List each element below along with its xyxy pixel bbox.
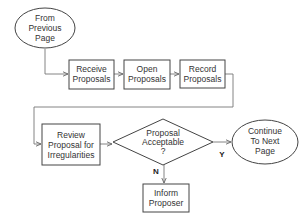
node-record-proposals: Record Proposals [180, 60, 225, 88]
node-review-line1: Review [57, 130, 86, 140]
node-from-previous-line2: Previous [28, 23, 61, 33]
node-review-proposal: Review Proposal for Irregularities [42, 124, 100, 165]
node-decision-acceptable: Proposal Acceptable ? [113, 119, 213, 165]
node-continue-line1: Continue [248, 126, 282, 136]
node-continue-next-page: Continue To Next Page [232, 120, 298, 164]
node-record-line1: Record [189, 64, 217, 74]
node-receive-line2: Proposals [73, 74, 111, 84]
node-open-proposals: Open Proposals [124, 60, 170, 89]
node-from-previous-line1: From [35, 13, 55, 23]
node-open-line2: Proposals [128, 74, 166, 84]
node-open-line1: Open [137, 64, 158, 74]
node-receive-proposals: Receive Proposals [69, 60, 114, 89]
node-review-line3: Irregularities [48, 150, 95, 160]
node-record-line2: Proposals [184, 74, 222, 84]
node-inform-line1: Inform [154, 188, 178, 198]
edge-label-no: N [153, 167, 159, 176]
node-inform-proposer: Inform Proposer [143, 184, 189, 212]
node-decision-line3: ? [161, 146, 166, 156]
node-inform-line2: Proposer [149, 198, 184, 208]
node-review-line2: Proposal for [48, 140, 94, 150]
edge-from-previous-to-receive [45, 49, 68, 74]
edge-label-yes: Y [219, 150, 225, 159]
node-continue-line2: To Next [251, 136, 280, 146]
node-from-previous-line3: Page [35, 33, 55, 43]
node-receive-line1: Receive [76, 64, 107, 74]
node-continue-line3: Page [255, 146, 275, 156]
node-from-previous-page: From Previous Page [15, 8, 75, 48]
flowchart-canvas: From Previous Page Receive Proposals Ope… [0, 0, 306, 222]
